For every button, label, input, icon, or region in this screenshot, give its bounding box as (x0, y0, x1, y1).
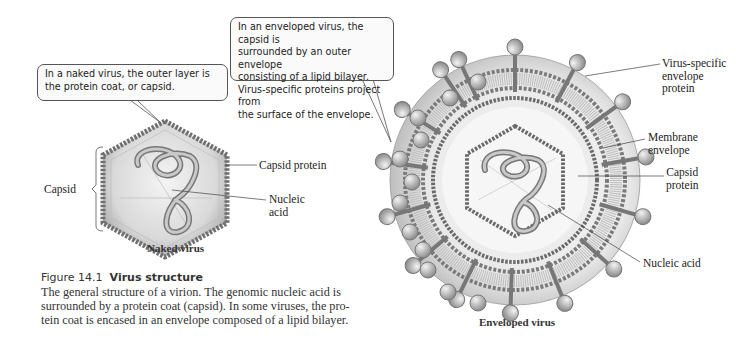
enveloped-virus-callout: In an enveloped virus, the capsid is sur… (230, 17, 394, 81)
label-capsid-protein-env: Capsid protein (666, 166, 699, 191)
caption-line: surrounded by a protein coat (capsid). I… (41, 299, 350, 313)
figure-heading: Figure 14.1 Virus structure (41, 271, 203, 284)
label-capsid: Capsid (44, 183, 76, 196)
label-nucleic-acid: Nucleic acid (269, 193, 305, 218)
label-envelope-protein: Virus-specific envelope protein (662, 57, 736, 95)
enveloped-virus-illustration (362, 39, 664, 321)
figure-caption: The general structure of a virion. The g… (41, 285, 350, 327)
label-nucleic-acid-env: Nucleic acid (643, 257, 701, 270)
caption-line: tein coat is encased in an envelope comp… (41, 313, 350, 327)
naked-virus-illustration (92, 100, 266, 257)
naked-virus-subtitle: Naked virus (147, 242, 204, 254)
figure-title: Virus structure (110, 271, 203, 284)
enveloped-virus-subtitle: Enveloped virus (479, 316, 555, 328)
naked-virus-callout: In a naked virus, the outer layer is the… (37, 64, 228, 101)
figure-number: Figure 14.1 (41, 271, 103, 284)
caption-line: The general structure of a virion. The g… (41, 285, 350, 299)
label-membrane-envelope: Membrane envelope (648, 131, 698, 156)
label-capsid-protein: Capsid protein (259, 159, 326, 172)
